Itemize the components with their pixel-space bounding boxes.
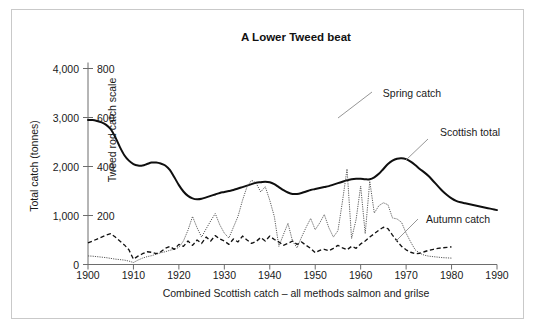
series-line-scottish-total [88,120,497,210]
x-axis-tick-label: 1930 [213,269,237,281]
chart-figure: A Lower Tweed beat1900191019201930194019… [0,0,537,330]
x-axis-tick-label: 1970 [394,269,418,281]
x-axis-tick-label: 1980 [440,269,464,281]
annotations-group [338,92,428,241]
series-label-scottish-total: Scottish total [440,126,500,138]
y-axis-primary-tick-label: 2,000 [53,161,79,173]
series-group [88,120,497,263]
series-line-autumn-catch [88,227,452,259]
series-label-autumn-catch: Autumn catch [426,213,490,225]
chart-canvas: A Lower Tweed beat1900191019201930194019… [0,0,537,330]
text-group: A Lower Tweed beat1900191019201930194019… [28,31,509,299]
y-axis-primary-tick-label: 4,000 [53,63,79,75]
x-axis-tick-label: 1940 [258,269,282,281]
x-axis-tick-label: 1990 [485,269,509,281]
y-axis-primary-tick-label: 1,000 [53,210,79,222]
leader-spring-catch [338,92,372,118]
x-axis-title: Combined Scottish catch – all methods sa… [163,287,430,299]
y-axis-primary-tick-label: 0 [73,259,79,271]
y-axis-secondary-tick-label: 800 [97,63,115,75]
leader-autumn-catch [396,219,418,241]
y-axis-secondary-title: Tweed rod catch scale [106,78,118,183]
chart-title: A Lower Tweed beat [241,31,351,43]
y-axis-secondary-tick-label: 200 [97,210,115,222]
x-axis-tick-label: 1950 [304,269,328,281]
x-axis-tick-label: 1960 [349,269,373,281]
leader-scottish-total [406,139,428,160]
x-axis-tick-label: 1920 [167,269,191,281]
x-axis-tick-label: 1900 [76,269,100,281]
y-axis-primary-title: Total catch (tonnes) [28,120,40,212]
y-axis-primary-tick-label: 3,000 [53,112,79,124]
x-axis-tick-label: 1910 [122,269,146,281]
series-label-spring-catch: Spring catch [383,87,442,99]
